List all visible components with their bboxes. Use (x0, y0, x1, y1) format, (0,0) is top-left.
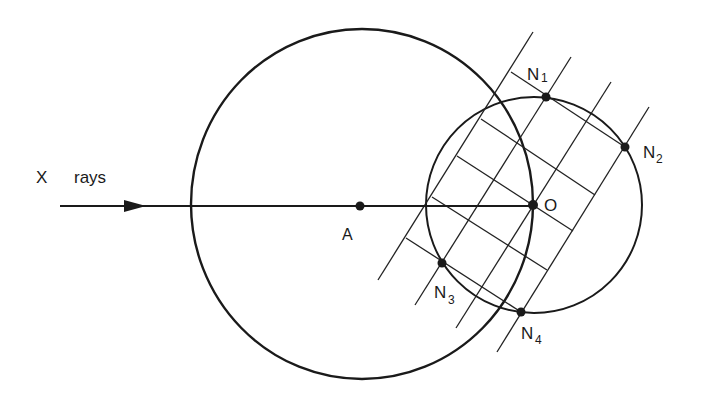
label-n1-main: N (527, 65, 539, 84)
label-n2: N 2 (643, 143, 663, 166)
label-n3: N 3 (434, 283, 455, 307)
label-n4-sub: 4 (535, 333, 542, 347)
point-n1 (542, 93, 551, 102)
label-a: A (342, 226, 353, 243)
label-n4-main: N (521, 324, 533, 343)
point-a (356, 202, 365, 211)
lattice-cross-3 (457, 156, 573, 231)
label-o: O (544, 196, 557, 215)
point-n2 (621, 143, 630, 152)
label-n1: N 1 (527, 65, 548, 85)
point-n4 (517, 308, 526, 317)
label-n2-sub: 2 (656, 152, 663, 166)
label-n3-sub: 3 (448, 293, 455, 307)
lattice-cross-2 (481, 119, 595, 195)
xrays-x-label: X (36, 168, 47, 187)
lattice-cross-5 (406, 238, 521, 312)
arrow-head-icon (124, 200, 146, 212)
lattice-cross-lines (406, 72, 625, 312)
label-n1-sub: 1 (541, 71, 548, 85)
point-n3 (438, 259, 447, 268)
label-n4: N 4 (521, 324, 542, 347)
ewald-diagram: X rays A O N 1 N 2 N 3 N 4 (0, 0, 702, 395)
xrays-rays-label: rays (74, 168, 106, 187)
point-o (528, 200, 538, 210)
label-n2-main: N (643, 143, 655, 162)
label-n3-main: N (434, 283, 446, 302)
